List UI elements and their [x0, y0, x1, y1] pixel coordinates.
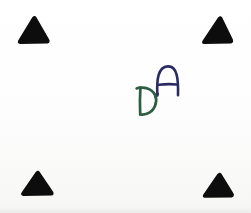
triangle-glyph: [21, 171, 54, 196]
corner-marker-top-right: [201, 15, 234, 45]
corner-marker-top-left: [17, 15, 51, 45]
corner-marker-bottom-right: [202, 172, 235, 199]
triangle-glyph: [202, 16, 233, 44]
triangle-glyph: [203, 173, 234, 198]
corner-marker-bottom-left: [20, 170, 55, 197]
handwritten-letter-d: [134, 85, 162, 117]
triangle-glyph: [18, 16, 50, 44]
scan-bottom-edge: [0, 208, 251, 213]
scanned-sheet: [0, 0, 251, 213]
